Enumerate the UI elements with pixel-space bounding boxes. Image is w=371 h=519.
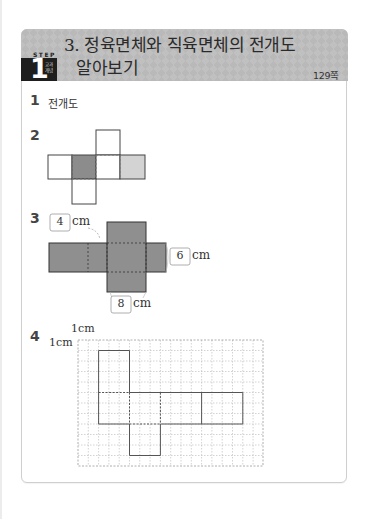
answer-1: 전개도	[48, 95, 78, 111]
page-title-line1: 3. 정육면체와 직육면체의 전개도	[64, 31, 295, 56]
label-6-value: 6	[170, 249, 190, 262]
grid-unit-x: 1cm	[71, 322, 95, 335]
page-title-line2: 알아보기	[76, 54, 138, 79]
question-number-2: 2	[30, 127, 40, 143]
label-8-value: 8	[111, 297, 131, 310]
label-6-unit: cm	[192, 248, 210, 262]
page-edge	[0, 0, 2, 519]
question-number-1: 1	[30, 92, 40, 108]
page-reference: 129쪽	[313, 68, 339, 82]
step-subtitle: 교과 개념	[43, 62, 54, 74]
grid-unit-y: 1cm	[49, 336, 73, 349]
label-8-unit: cm	[133, 296, 151, 310]
label-4-value: 4	[50, 215, 70, 228]
question-number-3: 3	[30, 210, 40, 226]
question-number-4: 4	[30, 328, 40, 344]
label-4-unit: cm	[72, 214, 90, 228]
